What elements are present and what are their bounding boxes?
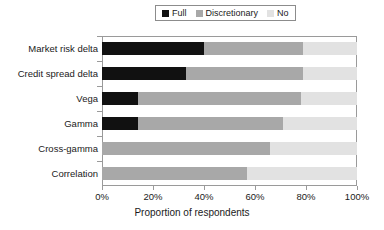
y-axis-tick [97, 36, 102, 37]
bar-segment [301, 92, 357, 105]
bar-track [102, 142, 357, 155]
x-axis-tick-labels: 0%20%40%60%80%100% [0, 191, 384, 205]
bar-row [102, 61, 357, 86]
y-axis-tick [97, 136, 102, 137]
y-axis-category-label: Vega [0, 86, 98, 111]
stacked-bar-chart: FullDiscretionaryNo Market risk deltaCre… [0, 0, 384, 230]
legend-swatch-icon [267, 10, 274, 17]
x-axis-tick-label: 40% [194, 191, 213, 203]
bar-segment [102, 167, 247, 180]
bar-segment [102, 117, 138, 130]
x-axis-title: Proportion of respondents [0, 207, 384, 218]
bar-segment [102, 42, 204, 55]
y-axis-category-label: Market risk delta [0, 36, 98, 61]
x-axis-tick-label: 60% [245, 191, 264, 203]
bar-row [102, 111, 357, 136]
bar-row [102, 86, 357, 111]
bar-segment [102, 142, 270, 155]
x-axis-tick [102, 186, 103, 190]
bar-segment [138, 117, 283, 130]
bar-segment [270, 142, 357, 155]
bar-row [102, 36, 357, 61]
chart-legend: FullDiscretionaryNo [155, 5, 296, 21]
y-axis-category-label: Cross-gamma [0, 136, 98, 161]
bar-track [102, 42, 357, 55]
x-axis-tick [306, 186, 307, 190]
bar-segment [138, 92, 301, 105]
bar-segment [303, 67, 357, 80]
y-axis-tick [97, 86, 102, 87]
y-axis-tick [97, 111, 102, 112]
legend-entry: No [267, 9, 289, 18]
legend-entry: Discretionary [196, 9, 259, 18]
x-axis-tick-label: 0% [95, 191, 109, 203]
bar-track [102, 67, 357, 80]
bar-segment [186, 67, 303, 80]
x-axis-tick [255, 186, 256, 190]
x-axis-tick [357, 186, 358, 190]
y-axis-labels: Market risk deltaCredit spread deltaVega… [0, 36, 98, 186]
bar-segment [247, 167, 357, 180]
bar-segment [102, 92, 138, 105]
bar-track [102, 167, 357, 180]
bar-row [102, 161, 357, 186]
legend-swatch-icon [196, 10, 203, 17]
legend-swatch-icon [162, 10, 169, 17]
x-axis-tick-label: 80% [296, 191, 315, 203]
y-axis-tick [97, 161, 102, 162]
bar-track [102, 92, 357, 105]
x-axis-tick-label: 100% [345, 191, 369, 203]
legend-label: Full [172, 9, 187, 18]
x-axis-tick-label: 20% [143, 191, 162, 203]
legend-label: Discretionary [206, 9, 259, 18]
bar-series-group [102, 36, 357, 186]
bar-row [102, 136, 357, 161]
legend-label: No [277, 9, 289, 18]
bar-segment [204, 42, 303, 55]
bar-segment [102, 67, 186, 80]
y-axis-category-label: Credit spread delta [0, 61, 98, 86]
y-axis-category-label: Correlation [0, 161, 98, 186]
x-axis-tick [204, 186, 205, 190]
x-axis-tick [153, 186, 154, 190]
bar-segment [283, 117, 357, 130]
legend-entry: Full [162, 9, 187, 18]
y-axis-category-label: Gamma [0, 111, 98, 136]
bar-segment [303, 42, 357, 55]
y-axis-tick [97, 61, 102, 62]
bar-track [102, 117, 357, 130]
